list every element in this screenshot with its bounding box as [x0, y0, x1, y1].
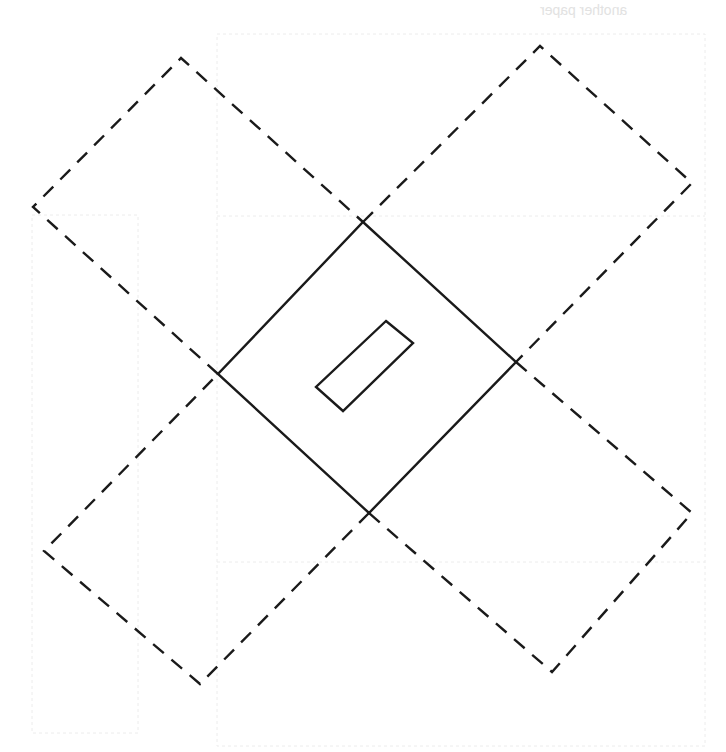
inner-slot — [316, 321, 413, 411]
fold-diagram — [0, 0, 726, 752]
flap-bottom-left — [44, 374, 369, 684]
flap-top-right — [363, 46, 692, 362]
ghost-lines — [32, 34, 705, 746]
flap-bottom-right — [369, 362, 692, 672]
center-square — [218, 222, 516, 513]
